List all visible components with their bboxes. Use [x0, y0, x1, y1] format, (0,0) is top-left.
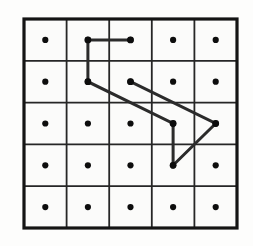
path-vertex-4-r3c4: [170, 120, 177, 127]
figure-root: [0, 0, 253, 246]
grid-dot-r2c1: [42, 79, 48, 85]
grid-dot-r5c3: [127, 204, 133, 210]
grid-dot-r3c1: [42, 120, 48, 126]
path-vertex-2-r1c2: [85, 37, 92, 44]
grid-dot-r4c2: [85, 162, 91, 168]
path-vertex-1-r1c3: [127, 37, 134, 44]
grid-dot-r4c1: [42, 162, 48, 168]
grid-dot-r5c5: [213, 204, 219, 210]
path-vertex-6-r3c5: [212, 120, 219, 127]
grid-dot-r5c2: [85, 204, 91, 210]
grid-dot-r5c1: [42, 204, 48, 210]
grid-dot-r1c4: [170, 37, 176, 43]
grid-dot-r2c4: [170, 79, 176, 85]
grid-dot-r1c5: [213, 37, 219, 43]
path-vertex-7-r2c3: [127, 78, 134, 85]
path-vertex-5-r4c4: [170, 162, 177, 169]
grid-dot-r3c2: [85, 120, 91, 126]
grid-dot-r1c1: [42, 37, 48, 43]
dot-grid-figure: [0, 0, 253, 246]
grid-dot-r5c4: [170, 204, 176, 210]
grid-dot-r4c5: [213, 162, 219, 168]
grid-dot-r4c3: [127, 162, 133, 168]
path-vertex-3-r2c2: [85, 78, 92, 85]
grid-dot-r3c3: [127, 120, 133, 126]
grid-dot-r2c5: [213, 79, 219, 85]
